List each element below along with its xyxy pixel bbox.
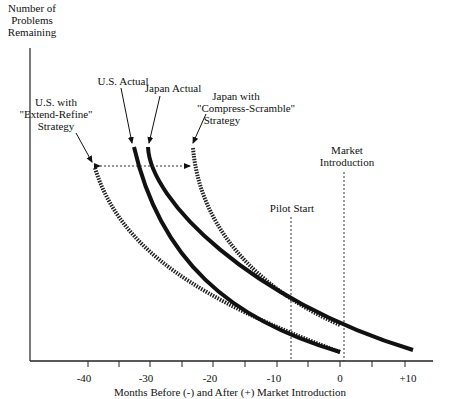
japan-compress-scramble-label-line2: "Compress-Scramble" (197, 102, 295, 114)
x-tick-label: -20 (203, 372, 218, 384)
market-introduction-label-line1: Market (331, 144, 363, 156)
us-extend-refine-label-line3: Strategy (38, 120, 75, 132)
market-introduction-label-line2: Introduction (320, 156, 375, 168)
us-actual-arrow (121, 88, 132, 143)
x-tick-label: 0 (337, 372, 343, 384)
japan-actual-arrow (149, 96, 160, 143)
us-extend-refine-arrow (76, 133, 92, 162)
us-actual-label: U.S. Actual (97, 75, 148, 87)
y-axis-label-line1: Number of (8, 2, 56, 14)
pilot-start-label: Pilot Start (270, 202, 314, 214)
us-extend-refine-label-line1: U.S. with (35, 96, 77, 108)
chart: Number of Problems Remaining -40 -30 -20… (0, 0, 451, 399)
japan-compress-scramble-arrow (193, 114, 206, 143)
y-axis-label-line2: Problems (11, 14, 53, 26)
japan-compress-scramble-label-line1: Japan with (212, 90, 260, 102)
x-tick-label: -10 (267, 372, 282, 384)
us-extend-refine-label-line2: "Extend-Refine" (19, 108, 92, 120)
x-axis-label: Months Before (-) and After (+) Market I… (114, 386, 346, 399)
y-axis-label-line3: Remaining (8, 26, 57, 38)
japan-actual-label: Japan Actual (145, 82, 202, 94)
us-extend-refine-curve (95, 168, 340, 352)
japan-compress-scramble-label-line3: Strategy (204, 114, 241, 126)
us-actual-curve (134, 147, 340, 352)
japan-actual-curve (148, 147, 413, 350)
x-tick-label: -40 (77, 372, 92, 384)
x-tick-label: +10 (399, 372, 417, 384)
x-tick-label: -30 (139, 372, 154, 384)
x-axis-ticks (88, 361, 405, 367)
